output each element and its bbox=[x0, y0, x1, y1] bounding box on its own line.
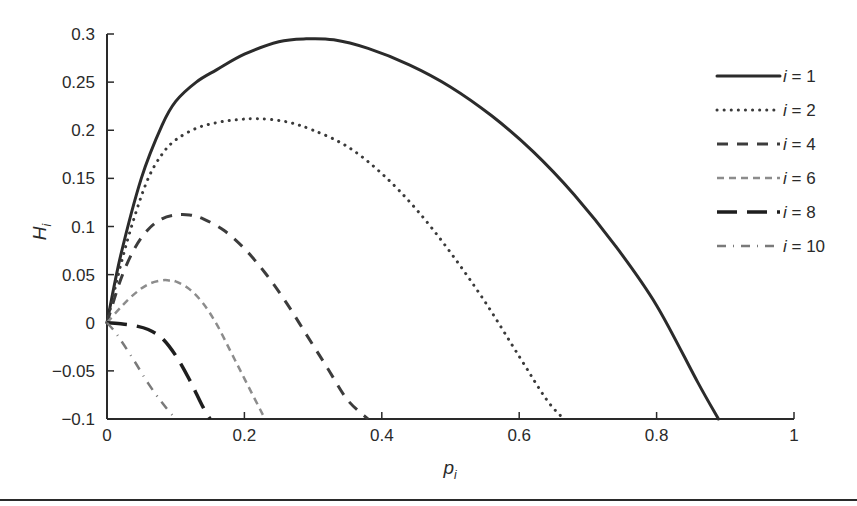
y-tick-label: 0.15 bbox=[62, 169, 95, 188]
y-tick-label: −0.05 bbox=[52, 362, 95, 381]
legend-label: i = 2 bbox=[783, 101, 816, 120]
y-tick-label: 0.3 bbox=[71, 25, 95, 44]
legend-label: i = 10 bbox=[783, 237, 825, 256]
x-axis-label: pi bbox=[442, 457, 457, 482]
legend-label-value: = 1 bbox=[787, 67, 816, 86]
series-line-i-8 bbox=[107, 323, 210, 419]
x-tick-label: 0.4 bbox=[370, 426, 394, 445]
legend-label-value: = 6 bbox=[787, 169, 816, 188]
y-tick-label: 0.1 bbox=[71, 218, 95, 237]
legend-item: i = 1 bbox=[717, 67, 816, 86]
y-axis-ticks: −0.1−0.0500.050.10.150.20.250.3 bbox=[52, 25, 114, 429]
x-tick-label: 0.8 bbox=[645, 426, 669, 445]
x-axis-ticks: 00.20.40.60.81 bbox=[102, 412, 798, 445]
y-tick-label: 0.25 bbox=[62, 73, 95, 92]
series-line-i-2 bbox=[107, 119, 564, 419]
legend: i = 1i = 2i = 4i = 6i = 8i = 10 bbox=[717, 67, 825, 256]
legend-label-value: = 2 bbox=[787, 101, 816, 120]
legend-item: i = 8 bbox=[717, 203, 816, 222]
y-tick-label: 0.2 bbox=[71, 121, 95, 140]
legend-label-value: = 8 bbox=[787, 203, 816, 222]
x-tick-label: 0 bbox=[102, 426, 111, 445]
y-axis-label-main: H bbox=[29, 226, 50, 240]
y-tick-label: 0 bbox=[86, 314, 95, 333]
legend-item: i = 4 bbox=[717, 135, 816, 154]
x-axis-label-main: p bbox=[442, 457, 454, 478]
legend-label-value: = 10 bbox=[787, 237, 825, 256]
legend-label: i = 1 bbox=[783, 67, 816, 86]
line-chart: −0.1−0.0500.050.10.150.20.250.3 00.20.40… bbox=[0, 0, 857, 506]
y-axis-label-subscript: i bbox=[40, 223, 54, 226]
y-axis-label: Hi bbox=[29, 223, 54, 240]
series-line-i-1 bbox=[107, 39, 718, 419]
series-line-i-6 bbox=[107, 280, 265, 419]
series-layer bbox=[107, 39, 718, 419]
bottom-rule-divider bbox=[0, 499, 857, 501]
legend-label-value: = 4 bbox=[787, 135, 816, 154]
series-line-i-10 bbox=[107, 323, 176, 419]
x-tick-label: 0.6 bbox=[507, 426, 531, 445]
legend-label: i = 8 bbox=[783, 203, 816, 222]
plot-axes: −0.1−0.0500.050.10.150.20.250.3 00.20.40… bbox=[52, 25, 799, 445]
legend-item: i = 10 bbox=[717, 237, 825, 256]
x-tick-label: 0.2 bbox=[233, 426, 257, 445]
x-axis-label-subscript: i bbox=[454, 468, 457, 482]
y-tick-label: −0.1 bbox=[61, 410, 95, 429]
y-tick-label: 0.05 bbox=[62, 266, 95, 285]
series-line-i-4 bbox=[107, 214, 368, 419]
x-tick-label: 1 bbox=[789, 426, 798, 445]
legend-item: i = 2 bbox=[717, 101, 816, 120]
legend-label: i = 4 bbox=[783, 135, 816, 154]
legend-item: i = 6 bbox=[717, 169, 816, 188]
legend-label: i = 6 bbox=[783, 169, 816, 188]
